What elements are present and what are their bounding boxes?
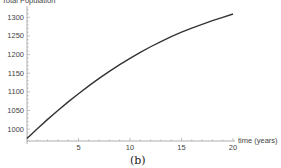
population-chart: 51015201000105011001150120012501300 Tota… xyxy=(0,0,281,168)
figure-caption: (b) xyxy=(130,154,146,167)
y-axis-label: Total Population xyxy=(2,0,55,5)
y-tick-label: 1300 xyxy=(7,13,24,22)
ticks: 51015201000105011001150120012501300 xyxy=(7,10,237,152)
population-line xyxy=(27,14,233,138)
y-tick-label: 1050 xyxy=(7,106,24,115)
y-tick-label: 1100 xyxy=(8,87,24,96)
y-tick-label: 1250 xyxy=(7,31,24,40)
x-tick-label: 10 xyxy=(126,143,134,152)
series-layer xyxy=(27,14,233,138)
x-tick-label: 20 xyxy=(229,143,237,152)
y-tick-label: 1000 xyxy=(7,125,24,134)
x-tick-label: 5 xyxy=(76,143,80,152)
axes xyxy=(27,6,235,144)
x-tick-label: 15 xyxy=(177,143,185,152)
y-tick-label: 1150 xyxy=(8,69,24,78)
y-tick-label: 1200 xyxy=(7,50,24,59)
x-axis-label: time (years) xyxy=(238,136,278,145)
